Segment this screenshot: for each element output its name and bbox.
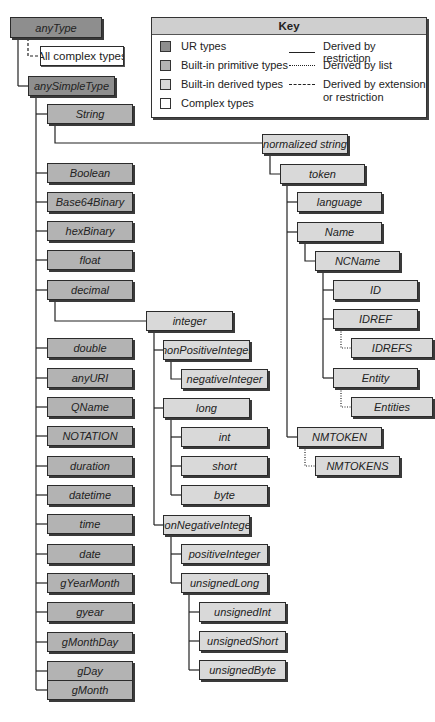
node-boolean: Boolean bbox=[47, 163, 133, 183]
node-ncname: NCName bbox=[315, 251, 400, 271]
node-integer: integer bbox=[146, 311, 233, 331]
node-anysimpletype: anySimpleType bbox=[28, 76, 115, 96]
legend-extension-cont: or restriction bbox=[323, 91, 384, 103]
node-short: short bbox=[181, 456, 268, 476]
node-unsignedint: unsignedInt bbox=[199, 602, 286, 622]
derived-swatch-icon bbox=[160, 79, 171, 90]
dotted-line-icon bbox=[289, 65, 315, 66]
node-long: long bbox=[163, 398, 250, 418]
node-hexbinary: hexBinary bbox=[47, 221, 133, 241]
node-entity: Entity bbox=[333, 368, 418, 388]
legend-list: Derived by list bbox=[289, 59, 392, 71]
node-negativeinteger: negativeInteger bbox=[181, 369, 268, 389]
node-id: ID bbox=[333, 280, 418, 300]
legend-ur-types: UR types bbox=[160, 40, 226, 52]
node-unsignedshort: unsignedShort bbox=[199, 631, 286, 651]
node-normalized-string: normalized string bbox=[262, 134, 348, 154]
legend-label: Complex types bbox=[181, 97, 254, 109]
legend-label: Derived by list bbox=[323, 59, 392, 71]
node-gmonth: gMonth bbox=[47, 680, 133, 700]
node-duration: duration bbox=[47, 456, 133, 476]
node-qname: QName bbox=[47, 397, 133, 417]
legend-label: UR types bbox=[181, 40, 226, 52]
type-hierarchy-diagram: Key UR types Built-in primitive types Bu… bbox=[0, 0, 435, 722]
node-decimal: decimal bbox=[47, 280, 133, 300]
node-entities: Entities bbox=[351, 397, 433, 417]
node-int: int bbox=[181, 427, 268, 447]
node-nmtokens: NMTOKENS bbox=[315, 456, 400, 476]
node-unsignedbyte: unsignedByte bbox=[199, 660, 286, 680]
node-notation: NOTATION bbox=[47, 426, 133, 446]
legend-complex-types: Complex types bbox=[160, 97, 254, 109]
node-anyuri: anyURI bbox=[47, 368, 133, 388]
node-date: date bbox=[47, 544, 133, 564]
node-idrefs: IDREFS bbox=[351, 338, 433, 358]
node-nonnegativeinteger: nonNegativeInteger bbox=[163, 515, 250, 535]
legend-key: Key UR types Built-in primitive types Bu… bbox=[151, 17, 427, 118]
node-gyearmonth: gYearMonth bbox=[47, 573, 133, 593]
node-gyear: gyear bbox=[47, 602, 133, 622]
node-float: float bbox=[47, 250, 133, 270]
legend-extension: Derived by extension bbox=[289, 78, 426, 90]
node-byte: byte bbox=[181, 485, 268, 505]
dashed-line-icon bbox=[289, 84, 315, 85]
node-all-complex-types: All complex types bbox=[40, 46, 124, 66]
solid-line-icon bbox=[289, 52, 315, 53]
node-anytype: anyType bbox=[10, 17, 102, 38]
node-gmonthday: gMonthDay bbox=[47, 632, 133, 652]
legend-label: Built-in primitive types bbox=[181, 59, 288, 71]
legend-label: Built-in derived types bbox=[181, 78, 283, 90]
legend-primitive-types: Built-in primitive types bbox=[160, 59, 288, 71]
ur-swatch-icon bbox=[160, 41, 171, 52]
node-idref: IDREF bbox=[333, 309, 418, 329]
node-unsignedlong: unsignedLong bbox=[181, 573, 268, 593]
node-positiveinteger: positiveInteger bbox=[181, 544, 268, 564]
complex-swatch-icon bbox=[160, 98, 171, 109]
node-nmtoken: NMTOKEN bbox=[297, 427, 382, 447]
legend-derived-types: Built-in derived types bbox=[160, 78, 283, 90]
node-string: String bbox=[47, 104, 133, 124]
node-double: double bbox=[47, 338, 133, 358]
node-token: token bbox=[280, 164, 365, 184]
node-language: language bbox=[297, 192, 382, 212]
node-nonpositiveinteger: nonPositiveInteger bbox=[163, 340, 250, 360]
primitive-swatch-icon bbox=[160, 60, 171, 71]
node-gday: gDay bbox=[47, 661, 133, 681]
legend-title: Key bbox=[152, 18, 426, 35]
node-datetime: datetime bbox=[47, 485, 133, 505]
node-time: time bbox=[47, 514, 133, 534]
node-name: Name bbox=[297, 222, 382, 242]
legend-label: or restriction bbox=[323, 91, 384, 103]
node-base64binary: Base64Binary bbox=[47, 192, 133, 212]
legend-label: Derived by extension bbox=[323, 78, 426, 90]
